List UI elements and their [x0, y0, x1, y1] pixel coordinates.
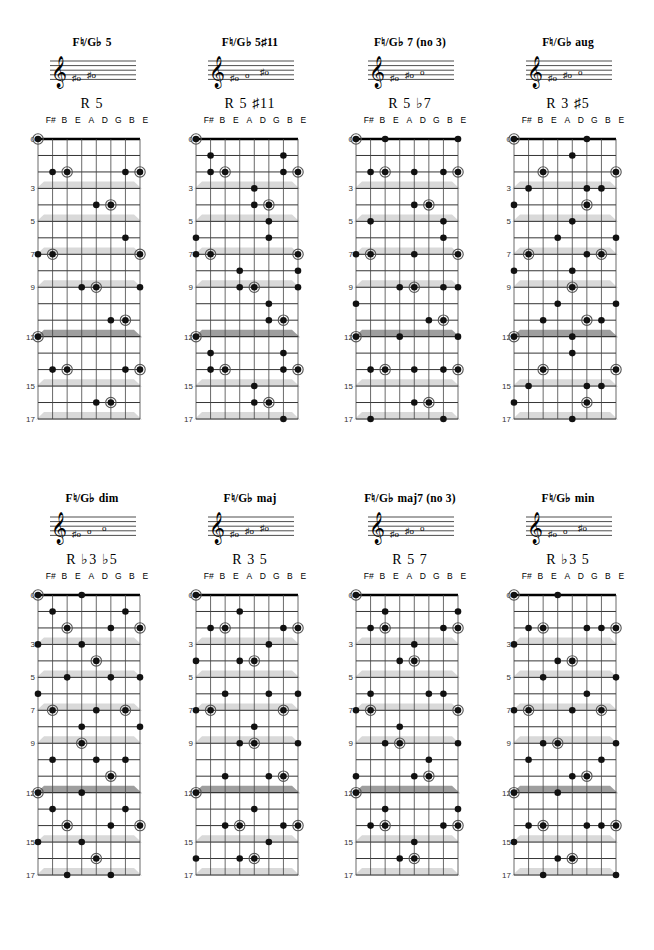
chord-tone-dot[interactable] — [122, 366, 129, 373]
chord-tone-dot[interactable] — [540, 674, 547, 681]
chord-tone-dot[interactable] — [93, 202, 100, 209]
root-note-dot[interactable] — [455, 625, 462, 632]
chord-tone-dot[interactable] — [236, 855, 243, 862]
chord-tone-dot[interactable] — [396, 658, 403, 665]
root-note-dot[interactable] — [455, 251, 462, 258]
chord-tone-dot[interactable] — [193, 235, 200, 242]
chord-tone-dot[interactable] — [122, 608, 129, 615]
chord-tone-dot[interactable] — [440, 691, 447, 698]
chord-tone-dot[interactable] — [193, 658, 200, 665]
fretboard-diagram[interactable]: 03579121517 — [24, 583, 146, 883]
root-note-dot[interactable] — [598, 707, 605, 714]
fretboard-container[interactable]: 03579121517 — [342, 127, 478, 427]
chord-tone-dot[interactable] — [78, 723, 85, 730]
chord-tone-dot[interactable] — [440, 169, 447, 176]
root-note-dot[interactable] — [455, 707, 462, 714]
chord-tone-dot[interactable] — [295, 740, 302, 747]
chord-tone-dot[interactable] — [598, 317, 605, 324]
fretboard-diagram[interactable]: 03579121517 — [182, 583, 304, 883]
chord-tone-dot[interactable] — [584, 625, 591, 632]
root-note-dot[interactable] — [64, 169, 71, 176]
chord-tone-dot[interactable] — [569, 152, 576, 159]
chord-tone-dot[interactable] — [455, 333, 462, 340]
root-note-dot[interactable] — [511, 136, 518, 143]
chord-tone-dot[interactable] — [511, 267, 518, 274]
fretboard-container[interactable]: 03579121517 — [182, 127, 318, 427]
chord-tone-dot[interactable] — [122, 756, 129, 763]
root-note-dot[interactable] — [93, 855, 100, 862]
chord-tone-dot[interactable] — [367, 169, 374, 176]
chord-tone-dot[interactable] — [511, 707, 518, 714]
chord-tone-dot[interactable] — [525, 822, 532, 829]
chord-tone-dot[interactable] — [78, 284, 85, 291]
chord-tone-dot[interactable] — [251, 185, 258, 192]
chord-tone-dot[interactable] — [411, 773, 418, 780]
root-note-dot[interactable] — [108, 202, 115, 209]
chord-tone-dot[interactable] — [49, 366, 56, 373]
root-note-dot[interactable] — [137, 822, 144, 829]
chord-tone-dot[interactable] — [122, 806, 129, 813]
chord-tone-dot[interactable] — [108, 872, 115, 879]
chord-tone-dot[interactable] — [455, 608, 462, 615]
chord-tone-dot[interactable] — [455, 740, 462, 747]
chord-tone-dot[interactable] — [584, 822, 591, 829]
chord-tone-dot[interactable] — [440, 235, 447, 242]
chord-tone-dot[interactable] — [49, 806, 56, 813]
chord-tone-dot[interactable] — [222, 773, 229, 780]
chord-tone-dot[interactable] — [613, 872, 620, 879]
chord-tone-dot[interactable] — [511, 202, 518, 209]
chord-tone-dot[interactable] — [411, 366, 418, 373]
chord-tone-dot[interactable] — [280, 416, 287, 423]
chord-tone-dot[interactable] — [207, 169, 214, 176]
root-note-dot[interactable] — [353, 333, 360, 340]
chord-tone-dot[interactable] — [35, 641, 42, 648]
chord-tone-dot[interactable] — [137, 674, 144, 681]
root-note-dot[interactable] — [511, 333, 518, 340]
chord-tone-dot[interactable] — [569, 350, 576, 357]
root-note-dot[interactable] — [295, 366, 302, 373]
chord-tone-dot[interactable] — [236, 284, 243, 291]
root-note-dot[interactable] — [382, 822, 389, 829]
chord-tone-dot[interactable] — [440, 218, 447, 225]
root-note-dot[interactable] — [295, 251, 302, 258]
fretboard-diagram[interactable]: 03579121517 — [24, 127, 146, 427]
chord-tone-dot[interactable] — [613, 300, 620, 307]
root-note-dot[interactable] — [251, 855, 258, 862]
chord-tone-dot[interactable] — [411, 839, 418, 846]
root-note-dot[interactable] — [193, 789, 200, 796]
chord-tone-dot[interactable] — [236, 740, 243, 747]
chord-tone-dot[interactable] — [455, 284, 462, 291]
root-note-dot[interactable] — [353, 789, 360, 796]
root-note-dot[interactable] — [280, 317, 287, 324]
chord-tone-dot[interactable] — [251, 202, 258, 209]
root-note-dot[interactable] — [222, 169, 229, 176]
chord-tone-dot[interactable] — [426, 691, 433, 698]
chord-tone-dot[interactable] — [367, 366, 374, 373]
root-note-dot[interactable] — [251, 284, 258, 291]
chord-tone-dot[interactable] — [613, 235, 620, 242]
chord-tone-dot[interactable] — [598, 756, 605, 763]
root-note-dot[interactable] — [426, 202, 433, 209]
root-note-dot[interactable] — [554, 740, 561, 747]
chord-tone-dot[interactable] — [295, 267, 302, 274]
root-note-dot[interactable] — [35, 136, 42, 143]
chord-tone-dot[interactable] — [251, 399, 258, 406]
root-note-dot[interactable] — [584, 399, 591, 406]
chord-tone-dot[interactable] — [584, 185, 591, 192]
chord-tone-dot[interactable] — [525, 185, 532, 192]
root-note-dot[interactable] — [266, 399, 273, 406]
chord-tone-dot[interactable] — [396, 333, 403, 340]
chord-tone-dot[interactable] — [64, 674, 71, 681]
chord-tone-dot[interactable] — [554, 855, 561, 862]
chord-tone-dot[interactable] — [280, 625, 287, 632]
chord-tone-dot[interactable] — [35, 839, 42, 846]
chord-tone-dot[interactable] — [455, 806, 462, 813]
chord-tone-dot[interactable] — [411, 202, 418, 209]
chord-tone-dot[interactable] — [584, 383, 591, 390]
chord-tone-dot[interactable] — [554, 235, 561, 242]
chord-tone-dot[interactable] — [554, 658, 561, 665]
chord-tone-dot[interactable] — [440, 366, 447, 373]
fretboard-container[interactable]: 03579121517 — [24, 127, 160, 427]
root-note-dot[interactable] — [382, 625, 389, 632]
root-note-dot[interactable] — [193, 333, 200, 340]
